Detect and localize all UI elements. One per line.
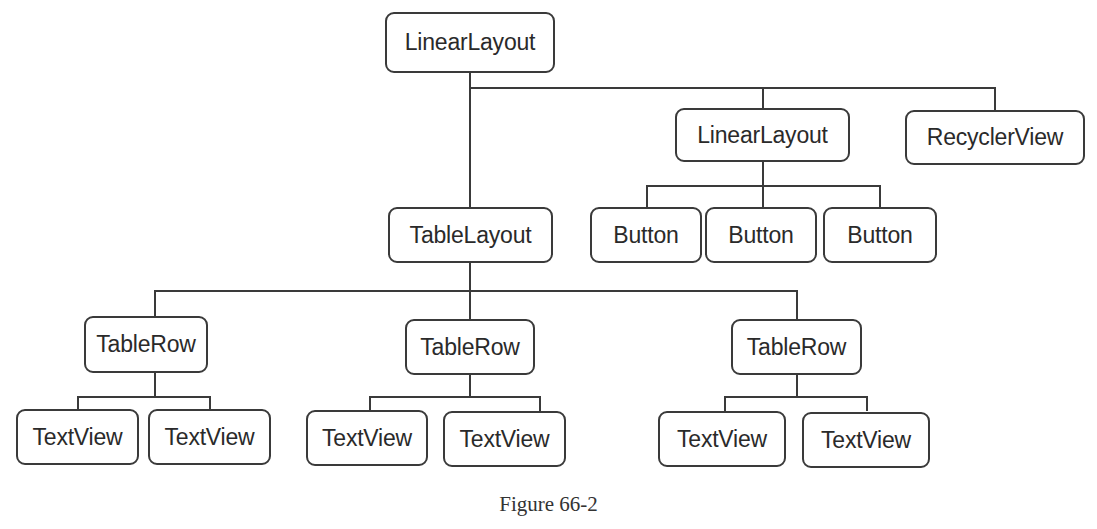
node-root-linear-layout: LinearLayout <box>385 12 555 73</box>
node-text-view-2b: TextView <box>443 411 566 467</box>
node-child-linear-layout: LinearLayout <box>675 108 850 162</box>
node-text-view-3a: TextView <box>658 411 786 467</box>
view-hierarchy-diagram: LinearLayout TableLayout LinearLayout Re… <box>0 0 1097 529</box>
node-text-view-3b: TextView <box>802 412 930 468</box>
node-table-layout: TableLayout <box>388 207 553 263</box>
node-recycler-view: RecyclerView <box>905 110 1085 165</box>
figure-caption: Figure 66-2 <box>0 492 1097 517</box>
node-button-3: Button <box>823 207 937 263</box>
node-text-view-2a: TextView <box>306 410 428 466</box>
node-table-row-3: TableRow <box>731 319 862 375</box>
node-table-row-2: TableRow <box>405 319 535 375</box>
node-table-row-1: TableRow <box>84 316 208 373</box>
node-text-view-1a: TextView <box>16 409 139 465</box>
node-text-view-1b: TextView <box>148 409 271 465</box>
node-button-1: Button <box>590 207 702 263</box>
node-button-2: Button <box>705 207 817 263</box>
